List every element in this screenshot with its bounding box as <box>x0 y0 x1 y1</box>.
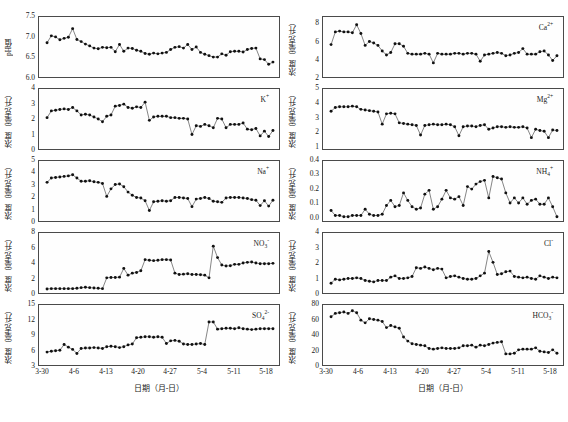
series-svg-no3 <box>39 233 279 293</box>
plot-area-so4: SO42- <box>38 304 280 366</box>
series-label-nh4: NH4+ <box>536 164 553 178</box>
x-tick-label: 4-6 <box>69 368 79 376</box>
panel-cl: 浓度（毫克/升）01234Cl- <box>284 230 568 302</box>
panel-k: 浓度（毫克/升）01234K+ <box>0 86 284 158</box>
y-tick-label: 4 <box>31 259 35 267</box>
y-tick-label: 0.1 <box>310 200 319 208</box>
y-tick-label: 3 <box>315 114 319 122</box>
plot-area-mg: Mg2+ <box>322 88 564 150</box>
y-tick-label: 7.5 <box>26 12 35 20</box>
plot-area-hco3: HCO3- <box>322 304 564 366</box>
y-tick-label: 0 <box>315 290 319 298</box>
y-tick-label: 2 <box>315 259 319 267</box>
x-axis-hco3: 3-304-64-134-204-275-45-115-18 <box>322 366 564 380</box>
y-tick-label: 5 <box>31 156 35 164</box>
series-label-no3: NO3- <box>254 236 269 250</box>
x-tick-label: 3-30 <box>35 368 49 376</box>
y-tick-label: 2 <box>315 129 319 137</box>
y-tick-label: 6 <box>31 244 35 252</box>
plot-area-ph <box>38 16 280 78</box>
y-tick-label: 2 <box>31 275 35 283</box>
series-label-k: K+ <box>260 92 269 104</box>
x-tick-label: 4-27 <box>447 368 461 376</box>
y-tick-label: 9 <box>31 331 35 339</box>
panel-mg: 浓度（毫克/升）12345Mg2+ <box>284 86 568 158</box>
series-svg-k <box>39 89 279 149</box>
series-svg-mg <box>323 89 563 149</box>
y-tick-label: 20 <box>312 347 320 355</box>
y-tick-label: 4 <box>31 84 35 92</box>
x-tick-label: 3-30 <box>319 368 333 376</box>
series-svg-ca <box>323 17 563 77</box>
series-label-so4: SO42- <box>252 308 269 322</box>
y-tick-label: 0.4 <box>310 156 319 164</box>
panel-ca: 浓度（毫克/升）2468Ca2+ <box>284 14 568 86</box>
y-tick-label: 2 <box>31 193 35 201</box>
y-tick-label: 80 <box>312 300 320 308</box>
multi-panel-timeseries-figure: pH值6.06.57.07.5浓度（毫克/升）01234K+浓度（毫克/升）01… <box>0 0 568 422</box>
y-axis-ticks-cl: 01234 <box>297 230 321 296</box>
series-label-hco3: HCO3- <box>533 308 553 322</box>
x-tick-label: 5-11 <box>227 368 240 376</box>
y-tick-label: 60 <box>312 316 320 324</box>
y-tick-label: 4 <box>315 56 319 64</box>
x-tick-label: 4-20 <box>415 368 429 376</box>
x-axis-title-hco3: 日期（月-日） <box>322 382 564 393</box>
plot-area-ca: Ca2+ <box>322 16 564 78</box>
y-tick-label: 4 <box>315 228 319 236</box>
x-tick-label: 5-18 <box>543 368 557 376</box>
series-svg-nh4 <box>323 161 563 221</box>
x-tick-label: 4-13 <box>99 368 113 376</box>
series-label-cl: Cl- <box>544 236 553 248</box>
x-tick-label: 5-4 <box>197 368 207 376</box>
y-tick-label: 8 <box>31 228 35 236</box>
y-tick-label: 0 <box>31 290 35 298</box>
y-tick-label: 3 <box>31 181 35 189</box>
panel-so4: 浓度（毫克/升）3691215SO42-3-304-64-134-204-275… <box>0 302 284 374</box>
series-svg-cl <box>323 233 563 293</box>
left-column: pH值6.06.57.07.5浓度（毫克/升）01234K+浓度（毫克/升）01… <box>0 0 284 422</box>
right-column: 浓度（毫克/升）2468Ca2+浓度（毫克/升）12345Mg2+浓度（毫克/升… <box>284 0 568 422</box>
y-tick-label: 15 <box>28 300 36 308</box>
series-svg-hco3 <box>323 305 563 365</box>
x-tick-label: 4-6 <box>353 368 363 376</box>
plot-area-cl: Cl- <box>322 232 564 294</box>
plot-area-no3: NO3- <box>38 232 280 294</box>
y-tick-label: 1 <box>31 131 35 139</box>
plot-area-na: Na+ <box>38 160 280 222</box>
x-tick-label: 4-27 <box>163 368 177 376</box>
series-label-ca: Ca2+ <box>539 20 553 32</box>
y-axis-ticks-ca: 2468 <box>297 14 321 80</box>
x-axis-so4: 3-304-64-134-204-275-45-115-18 <box>38 366 280 380</box>
plot-area-nh4: NH4+ <box>322 160 564 222</box>
x-tick-label: 4-13 <box>383 368 397 376</box>
y-tick-label: 0 <box>31 218 35 226</box>
y-tick-label: 0.2 <box>310 185 319 193</box>
y-tick-label: 5 <box>315 84 319 92</box>
y-tick-label: 12 <box>28 316 36 324</box>
series-svg-na <box>39 161 279 221</box>
y-tick-label: 7.0 <box>26 33 35 41</box>
y-tick-label: 0.3 <box>310 171 319 179</box>
y-tick-label: 8 <box>315 20 319 28</box>
y-tick-label: 2 <box>315 74 319 82</box>
x-tick-label: 5-11 <box>511 368 524 376</box>
series-svg-ph <box>39 17 279 77</box>
y-tick-label: 1 <box>315 143 319 151</box>
x-tick-label: 4-20 <box>131 368 145 376</box>
panel-no3: 浓度（毫克/升）02468NO3- <box>0 230 284 302</box>
panel-na: 浓度（毫克/升）012345Na+ <box>0 158 284 230</box>
y-tick-label: 0 <box>31 146 35 154</box>
x-axis-title-so4: 日期（月-日） <box>38 382 280 393</box>
panel-ph: pH值6.06.57.07.5 <box>0 14 284 86</box>
y-tick-label: 6 <box>31 347 35 355</box>
y-axis-ticks-so4: 3691215 <box>13 302 37 368</box>
y-tick-label: 1 <box>315 275 319 283</box>
y-tick-label: 6.0 <box>26 74 35 82</box>
y-tick-label: 6.5 <box>26 54 35 62</box>
y-axis-ticks-hco3: 020406080 <box>297 302 321 368</box>
y-tick-label: 4 <box>31 169 35 177</box>
y-axis-ticks-nh4: 0.00.10.20.30.4 <box>297 158 321 224</box>
y-axis-ticks-ph: 6.06.57.07.5 <box>13 14 37 80</box>
y-tick-label: 6 <box>315 38 319 46</box>
